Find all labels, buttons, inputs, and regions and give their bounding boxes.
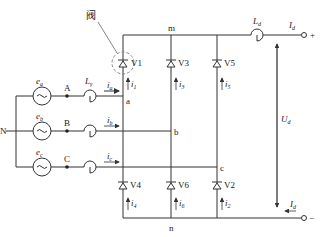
line-inductor-label: Lγ <box>84 76 93 87</box>
current-i6-label: i6 <box>179 198 185 209</box>
phase-node-b: b <box>174 127 179 137</box>
current-i3-label: i3 <box>179 79 185 90</box>
current-ic-label: ic <box>107 151 113 162</box>
valve-v2-label: V2 <box>224 180 235 190</box>
phase-b-row <box>16 122 171 140</box>
phase-node-a: a <box>126 96 130 106</box>
current-i1-label: i1 <box>131 79 137 90</box>
dc-current-bottom-label: Id <box>289 199 297 210</box>
current-ib-label: ib <box>107 115 113 126</box>
inductor-icon <box>84 161 96 173</box>
current-i2-label: i2 <box>225 198 231 209</box>
current-i5-label: i5 <box>225 79 231 90</box>
source-a-label: ea <box>36 76 43 87</box>
phase-node-c: c <box>220 163 224 173</box>
dc-inductor-label: Ld <box>252 16 262 27</box>
valve-v4-label: V4 <box>130 180 141 190</box>
valve-v5-label: V5 <box>224 58 235 68</box>
bottom-rail-label: n <box>169 223 174 233</box>
node-dot <box>65 94 69 98</box>
current-i4-label: i4 <box>131 198 137 209</box>
inductor-icon <box>84 125 96 137</box>
phase-c-row <box>16 158 217 176</box>
bridge-rectifier-diagram: N ea eb ec A B C Lγ ia ib ic <box>0 0 321 237</box>
dc-voltage-label: Ud <box>281 114 292 125</box>
negative-terminal <box>302 216 307 221</box>
circuit-svg: N ea eb ec A B C Lγ ia ib ic <box>0 0 321 237</box>
top-rail-label: m <box>168 23 175 33</box>
valve-label: 阀 <box>86 9 96 21</box>
valve-v6-label: V6 <box>178 180 189 190</box>
inductor-icon <box>84 90 96 102</box>
positive-sign: + <box>310 30 315 40</box>
node-dot <box>65 165 69 169</box>
dc-inductor-icon <box>251 29 263 41</box>
valve-v3-label: V3 <box>178 58 189 68</box>
node-B-label: B <box>64 118 70 128</box>
node-A-label: A <box>64 83 71 93</box>
node-C-label: C <box>64 154 70 164</box>
current-ia-label: ia <box>107 80 113 91</box>
positive-terminal <box>302 33 307 38</box>
source-c-label: ec <box>36 147 43 158</box>
dc-current-top-label: Id <box>288 20 296 31</box>
node-dot <box>65 129 69 133</box>
negative-sign: − <box>309 213 314 223</box>
valve-v1-label: V1 <box>131 58 142 68</box>
source-b-label: eb <box>36 111 43 122</box>
neutral-label: N <box>0 126 7 136</box>
